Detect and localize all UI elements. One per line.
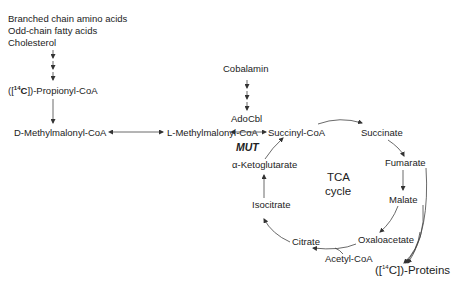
succinate-to-fumarate-arrow <box>388 140 404 156</box>
isocitrate-label: Isocitrate <box>252 200 291 210</box>
ketoglutarate-to-succinyl-arrow <box>265 138 283 159</box>
succinyl-to-succinate-arrow <box>318 120 362 124</box>
d-methylmalonyl-coa-label: D-Methylmalonyl-CoA <box>14 128 106 138</box>
alpha-ketoglutarate-label: α-Ketoglutarate <box>232 160 297 170</box>
source-branched-chain-amino-acids: Branched chain amino acids <box>8 14 127 24</box>
adocbl-label: AdoCbl <box>231 114 262 124</box>
l-methylmalonyl-coa-label: L-Methylmalonyl-CoA <box>167 128 258 138</box>
propionyl-coa-label: ([14C])-Propionyl-CoA <box>8 86 98 96</box>
succinyl-coa-label: Succinyl-CoA <box>268 128 325 138</box>
cobalamin-label: Cobalamin <box>223 64 268 74</box>
proteins-isotope-sup: 14 <box>382 264 389 270</box>
acetyl-coa-label: Acetyl-CoA <box>325 254 373 264</box>
propionyl-isotope-sup: 14 <box>14 85 21 91</box>
malate-label: Malate <box>389 195 418 205</box>
propionyl-suffix: ])-Propionyl-CoA <box>27 85 97 96</box>
source-odd-chain-fatty-acids: Odd-chain fatty acids <box>8 26 97 36</box>
succinate-label: Succinate <box>361 128 403 138</box>
oxaloacetate-label: Oxaloacetate <box>358 235 414 245</box>
proteins-suffix: ])-Proteins <box>397 264 450 276</box>
pathway-arrows <box>0 0 454 290</box>
proteins-isotope: C <box>389 264 397 276</box>
tca-cycle-title-line1: TCA <box>327 172 350 184</box>
citrate-label: Citrate <box>292 237 320 247</box>
citrate-to-isocitrate-arrow <box>264 219 290 242</box>
proteins-prefix: ([ <box>375 264 382 276</box>
source-cholesterol: Cholesterol <box>8 38 56 48</box>
mut-enzyme-label: MUT <box>236 142 259 153</box>
proteins-label: ([14C])-Proteins <box>375 265 450 277</box>
tca-cycle-title-line2: cycle <box>325 186 351 198</box>
fumarate-label: Fumarate <box>385 158 426 168</box>
malate-to-oxaloacetate-arrow <box>380 206 398 232</box>
tca-to-proteins-arrows <box>404 168 427 263</box>
